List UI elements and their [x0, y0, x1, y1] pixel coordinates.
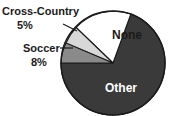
label-none: None — [112, 28, 142, 42]
label-soccer-percent: 8% — [31, 56, 47, 68]
label-cross-country-percent: 5% — [17, 19, 33, 31]
pie-chart-figure: Cross-Country 5% Soccer 8% None Other — [0, 0, 170, 116]
label-other: Other — [105, 81, 137, 95]
label-soccer: Soccer — [23, 42, 60, 54]
pie-chart-svg: Cross-Country 5% Soccer 8% None Other — [0, 0, 170, 116]
label-cross-country: Cross-Country — [2, 5, 80, 17]
